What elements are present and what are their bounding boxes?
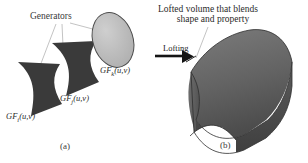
generator-j-shape xyxy=(52,41,99,96)
figure-canvas xyxy=(0,0,308,163)
generator-i-shape xyxy=(18,62,62,116)
caption-b: (b) xyxy=(220,140,231,150)
t-parameter-label: t xyxy=(183,52,186,61)
generator-k-label: GFk(u,v) xyxy=(100,66,130,78)
generator-i-label: GFi(u,v) xyxy=(6,112,35,124)
lofted-volume-label-line2: shape and property xyxy=(158,15,258,25)
caption-a: (a) xyxy=(60,141,70,151)
generator-k-shape xyxy=(85,7,140,73)
generator-j-label: GFj(u,v) xyxy=(60,94,89,106)
generators-label: Generators xyxy=(30,12,72,22)
lofted-volume-label: Lofted volume that blends shape and prop… xyxy=(158,5,258,25)
lofted-volume-label-line1: Lofted volume that blends xyxy=(158,4,258,14)
